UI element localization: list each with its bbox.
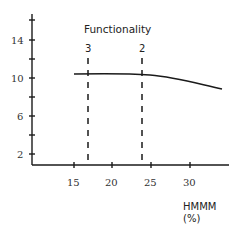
y-tick-label-14: 14 bbox=[11, 35, 24, 46]
functionality-label: Functionality bbox=[84, 23, 151, 35]
y-tick-label-2: 2 bbox=[17, 149, 23, 160]
x-tick-label-15: 15 bbox=[67, 177, 80, 188]
x-tick-label-25: 25 bbox=[144, 177, 157, 188]
x-tick-label-30: 30 bbox=[183, 177, 196, 188]
x-tick-label-20: 20 bbox=[105, 177, 118, 188]
y-tick-label-6: 6 bbox=[17, 111, 23, 122]
x-axis-label-line1: HMMM bbox=[183, 201, 216, 212]
line-chart: 14 10 6 2 15 20 25 30 HMMM (%) Functiona… bbox=[0, 0, 238, 230]
y-tick-label-10: 10 bbox=[11, 73, 24, 84]
x-axis-label-line2: (%) bbox=[183, 213, 200, 224]
data-curve bbox=[74, 74, 222, 89]
marker-2-label: 2 bbox=[139, 43, 145, 54]
marker-3-label: 3 bbox=[85, 43, 91, 54]
